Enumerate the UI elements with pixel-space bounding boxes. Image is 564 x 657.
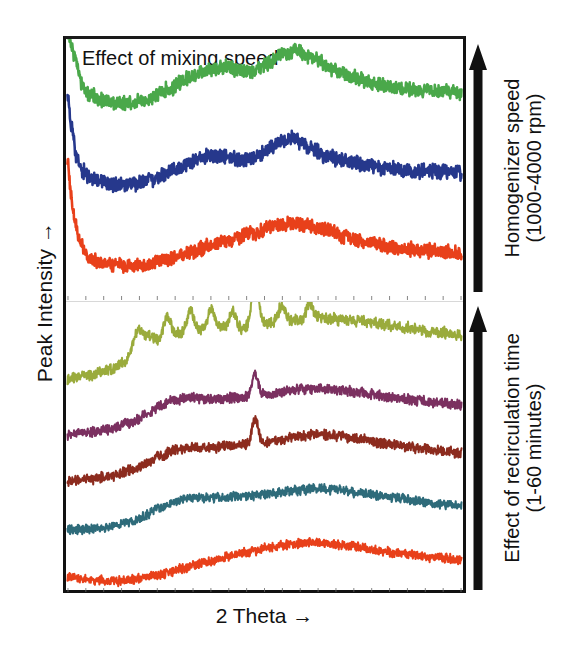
annotation-recirculation-time: Effect of recirculation time (1-60 minut…	[468, 306, 560, 590]
y-axis-label: Peak Intensity →	[33, 152, 57, 452]
xrd-trace	[67, 416, 461, 486]
xrd-trace	[67, 371, 461, 440]
annotation-bottom-line2: (1-60 minutes)	[524, 333, 546, 563]
panel-recirculation-time	[66, 302, 463, 593]
annotation-bottom-line1: Effect of recirculation time	[501, 333, 523, 563]
panel-mixing-speed-traces	[66, 39, 463, 301]
annotation-recirculation-time-text: Effect of recirculation time (1-60 minut…	[488, 306, 560, 590]
annotation-homogenizer-speed: Homogenizer speed (1000-4000 rpm)	[468, 44, 560, 292]
y-axis-label-container: Peak Intensity →	[0, 0, 58, 600]
x-axis-label: 2 Theta →	[63, 604, 466, 628]
xrd-trace	[67, 484, 461, 534]
annotation-top-line1: Homogenizer speed	[501, 79, 523, 258]
xrd-trace	[67, 302, 461, 384]
xrd-figure: Peak Intensity → Effect of mixing speed …	[0, 0, 564, 657]
xrd-trace	[67, 538, 461, 586]
plot-area: Effect of mixing speed	[63, 36, 466, 593]
up-arrow-icon	[468, 44, 488, 292]
axis-ticks	[68, 588, 461, 592]
panel-recirculation-time-traces	[66, 302, 463, 593]
xrd-trace	[67, 39, 461, 110]
panel-mixing-speed	[66, 39, 463, 301]
xrd-trace	[67, 95, 461, 192]
annotation-top-line2: (1000-4000 rpm)	[524, 79, 546, 258]
up-arrow-icon	[468, 306, 488, 590]
annotation-homogenizer-speed-text: Homogenizer speed (1000-4000 rpm)	[488, 44, 560, 292]
axis-ticks	[68, 296, 461, 300]
